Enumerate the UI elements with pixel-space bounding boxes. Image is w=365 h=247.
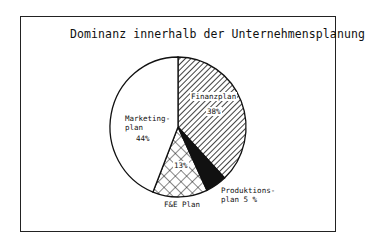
label-produktion-1: Produktions-	[221, 186, 275, 195]
value-fe: 13%	[173, 161, 189, 170]
label-fe: F&E Plan	[164, 200, 200, 209]
value-marketing: 44%	[136, 134, 150, 143]
label-marketing-2: plan	[125, 123, 143, 132]
label-finanzplan: Finanzplan	[190, 92, 237, 101]
value-finanzplan: 38%	[206, 107, 222, 116]
label-marketing-1: Marketing-	[125, 114, 170, 123]
label-produktion-2: plan 5 %	[221, 195, 257, 204]
